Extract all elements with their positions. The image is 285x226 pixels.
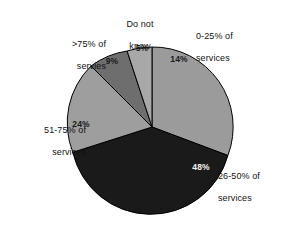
slice-label-do-not-know: Do not know (104, 8, 176, 63)
pie-chart: 14% 48% 24% 9% 5% Do not know 0-25% of s… (0, 0, 285, 226)
slice-label-51-75-line1: 51-75% of (2, 125, 86, 136)
slice-label-do-not-know-line1: Do not (104, 19, 176, 30)
slice-label-gt75-line2: servies (30, 61, 106, 72)
slice-value-26-50: 48% (189, 163, 213, 172)
slice-label-26-50-line2: services (218, 193, 284, 204)
slice-label-0-25: 0-25% of services (196, 20, 276, 75)
slice-label-gt75-line1: >75% of (30, 39, 106, 50)
slice-label-26-50-line1: 26-50% of (218, 171, 284, 182)
slice-label-gt75: >75% of servies (30, 28, 106, 83)
slice-label-0-25-line2: services (196, 53, 276, 64)
slice-label-51-75: 51-75% of services (2, 114, 86, 169)
slice-label-do-not-know-line2: know (104, 41, 176, 52)
slice-label-0-25-line1: 0-25% of (196, 31, 276, 42)
slice-label-51-75-line2: services (2, 147, 86, 158)
slice-label-26-50: 26-50% of services (218, 160, 284, 215)
